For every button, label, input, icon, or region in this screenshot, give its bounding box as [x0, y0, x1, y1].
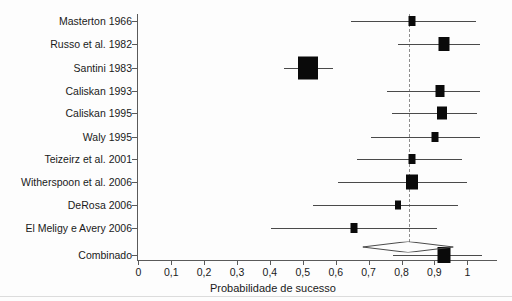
y-tick-0 [132, 21, 137, 22]
x-tick-9 [434, 260, 435, 265]
study-label: Waly 1995 [83, 131, 132, 143]
study-label: DeRosa 2006 [68, 199, 132, 211]
study-label: Masterton 1966 [59, 15, 132, 27]
x-axis-title: Probabilidade de sucesso [0, 282, 512, 294]
estimate-marker [409, 16, 416, 26]
reference-line [409, 14, 410, 242]
x-tick-5 [303, 260, 304, 265]
study-label: Teizeirz et al. 2001 [44, 153, 132, 165]
y-tick-8 [132, 205, 137, 206]
y-tick-2 [132, 68, 137, 69]
x-axis-title-text: Probabilidade de sucesso [176, 282, 336, 294]
study-label: Russo et al. 1982 [50, 38, 132, 50]
estimate-marker [351, 223, 358, 233]
estimate-marker [435, 85, 444, 97]
confidence-interval-line [371, 137, 481, 138]
study-label: Caliskan 1993 [65, 85, 132, 97]
estimate-marker [395, 201, 401, 210]
y-tick-4 [132, 113, 137, 114]
x-tick-7 [369, 260, 370, 265]
y-tick-3 [132, 91, 137, 92]
study-label: Witherspoon et al. 2006 [21, 176, 132, 188]
estimate-marker [409, 154, 416, 164]
confidence-interval-line [387, 91, 480, 92]
x-tick-6 [336, 260, 337, 265]
study-label: Caliskan 1995 [65, 107, 132, 119]
estimate-marker [298, 56, 318, 79]
y-axis-line [137, 14, 138, 260]
x-tick-4 [270, 260, 271, 265]
confidence-interval-line [338, 182, 467, 183]
confidence-interval-line [313, 205, 458, 206]
y-tick-5 [132, 137, 137, 138]
y-tick-7 [132, 182, 137, 183]
x-tick-3 [237, 260, 238, 265]
x-tick-10 [467, 260, 468, 265]
estimate-marker [438, 37, 449, 51]
pooled-diamond [363, 242, 454, 253]
footer-divider [0, 296, 512, 297]
forest-plot-figure: Masterton 1966Russo et al. 1982Santini 1… [0, 0, 512, 301]
y-tick-1 [132, 44, 137, 45]
y-tick-10 [132, 255, 137, 256]
x-tick-1 [171, 260, 172, 265]
study-label: El Meligy e Avery 2006 [25, 222, 132, 234]
estimate-marker [406, 175, 418, 190]
y-tick-6 [132, 159, 137, 160]
x-tick-2 [204, 260, 205, 265]
study-label: Santini 1983 [74, 62, 132, 74]
estimate-marker [432, 132, 439, 142]
estimate-marker [437, 107, 447, 120]
confidence-interval-line [392, 113, 477, 114]
x-tick-0 [138, 260, 139, 265]
x-tick-label: 1 [447, 266, 487, 279]
study-label: Combinado [78, 249, 132, 261]
y-tick-9 [132, 228, 137, 229]
x-tick-8 [402, 260, 403, 265]
